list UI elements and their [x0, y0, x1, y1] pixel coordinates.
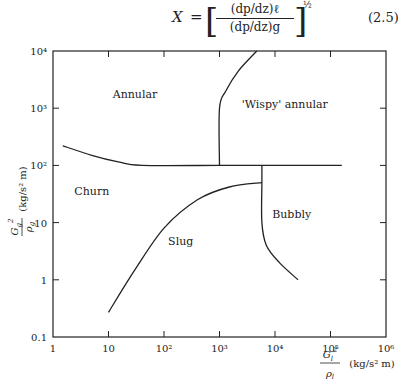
y-tick-label: 1 [41, 275, 47, 286]
flow-regime-map: 11010²10³10⁴10⁵10⁶0.111010²10³10⁴ Annula… [0, 0, 405, 387]
x-tick-label: 10⁶ [378, 343, 395, 354]
region-label: Churn [74, 185, 109, 198]
y-tick-label: 10³ [30, 103, 47, 114]
svg-text:Gg2: Gg2 [7, 218, 23, 235]
svg-text:(kg/s² m): (kg/s² m) [17, 166, 28, 212]
region-label: 'Wispy' annular [242, 98, 329, 111]
y-axis-label: Gg2 ρg (kg/s² m) [7, 166, 36, 236]
svg-text:ρg: ρg [23, 221, 36, 233]
y-tick-label: 10 [34, 218, 47, 229]
region-label: Slug [168, 235, 193, 248]
boundary-line [262, 165, 298, 279]
x-tick-label: 1 [50, 343, 56, 354]
axis-ticks: 11010²10³10⁴10⁵10⁶0.111010²10³10⁴ [30, 46, 394, 354]
svg-text:ρl: ρl [325, 368, 334, 381]
x-tick-label: 10⁴ [267, 343, 284, 354]
x-tick-label: 10³ [211, 343, 228, 354]
y-tick-label: 0.1 [31, 332, 47, 343]
x-tick-label: 10 [102, 343, 115, 354]
region-label: Bubbly [272, 208, 312, 221]
y-tick-label: 10² [30, 160, 47, 171]
svg-text:(kg/s² m): (kg/s² m) [349, 358, 395, 369]
region-label: Annular [112, 88, 158, 101]
y-tick-label: 10⁴ [30, 46, 47, 57]
region-labels: Annular'Wispy' annularChurnSlugBubbly [74, 88, 328, 248]
boundary-line [63, 146, 342, 166]
svg-text:Gl2: Gl2 [323, 346, 338, 363]
x-tick-label: 10² [156, 343, 173, 354]
boundary-curves [63, 51, 342, 312]
